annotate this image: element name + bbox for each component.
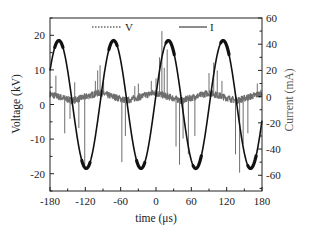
voltage-series	[50, 40, 262, 168]
y-axis-title: Voltage (kV)	[10, 74, 23, 134]
y2-tick-label: 40	[266, 38, 278, 50]
y-tick-label: 10	[34, 64, 46, 76]
y2-tick-label: 20	[266, 64, 278, 76]
x-tick-label: 0	[153, 195, 159, 207]
x-tick-label: 120	[218, 195, 235, 207]
x-tick-label: -60	[113, 195, 128, 207]
legend-i-label: I	[210, 21, 214, 33]
x-tick-label: 180	[254, 195, 271, 207]
y2-axis-title: Current (mA)	[283, 68, 296, 131]
y2-axis-ticks: -60-40-200204060	[258, 12, 281, 188]
x-tick-label: -120	[75, 195, 96, 207]
legend: V I	[92, 21, 214, 33]
legend-v-label: V	[125, 21, 133, 33]
y-tick-label: 20	[34, 29, 46, 41]
x-axis-ticks: -180-120-60060120180	[40, 187, 271, 207]
y2-tick-label: -60	[266, 169, 281, 181]
y-tick-label: -10	[30, 133, 45, 145]
y-tick-label: 0	[40, 99, 46, 111]
x-tick-label: -180	[40, 195, 61, 207]
y2-tick-label: 60	[266, 12, 278, 24]
y2-tick-label: 0	[266, 91, 272, 103]
y2-tick-label: -40	[266, 143, 281, 155]
y-tick-label: -20	[30, 168, 45, 180]
voltage-current-chart: -180-120-60060120180 -20-1001020 -60-40-…	[0, 0, 313, 232]
y2-tick-label: -20	[266, 117, 281, 129]
x-tick-label: 60	[186, 195, 198, 207]
x-axis-title: time (μs)	[135, 212, 177, 225]
